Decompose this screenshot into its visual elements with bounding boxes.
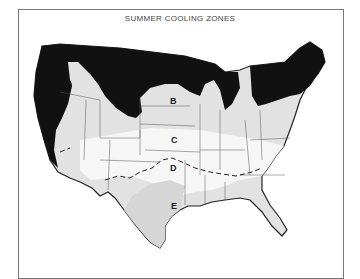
zone-label-c: C [171,135,178,145]
zone-a-northeast [250,42,325,106]
zone-label-e: E [171,201,177,211]
zone-label-d: D [170,163,177,173]
zone-label-b: B [170,96,177,106]
